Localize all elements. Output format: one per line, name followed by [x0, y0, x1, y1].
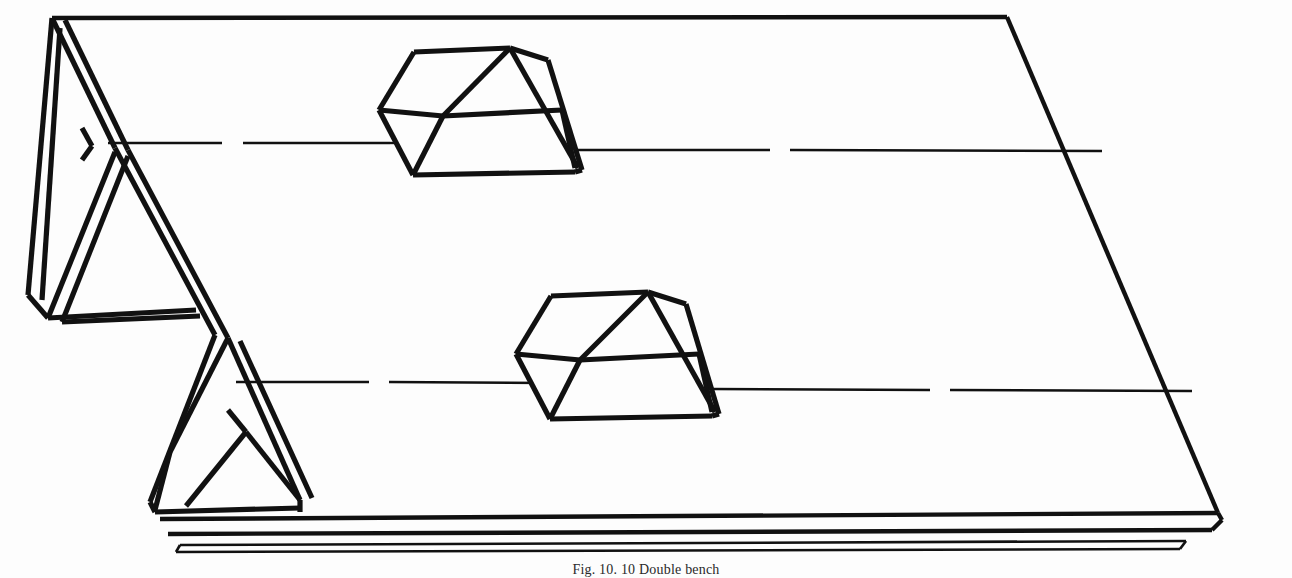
block-upper [379, 48, 582, 175]
bench-line-drawing [0, 0, 1292, 578]
worktop-surface [52, 17, 1218, 519]
block-lower [516, 292, 719, 419]
figure-caption: Fig. 10. 10 Double bench [0, 562, 1292, 578]
lower-stretcher-rail [176, 541, 1186, 552]
worktop-back-edge [52, 17, 1007, 18]
front-apron-rail [160, 513, 1222, 534]
figure-container: Fig. 10. 10 Double bench [0, 0, 1292, 578]
